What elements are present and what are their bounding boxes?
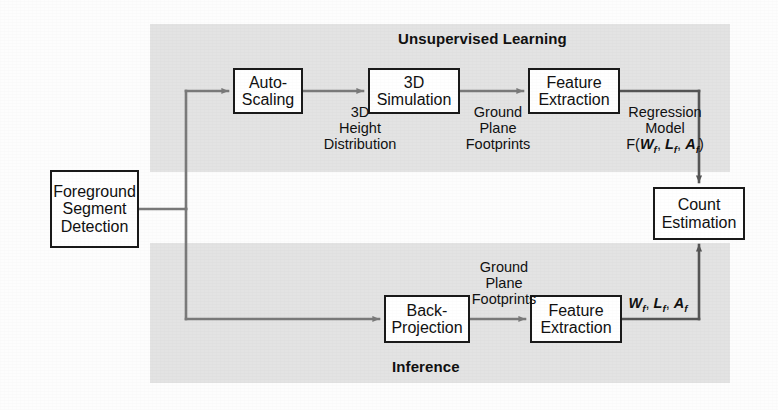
- node-line: Extraction: [538, 91, 609, 108]
- node-line: Auto-: [249, 74, 287, 91]
- node-line: Segment: [62, 200, 126, 217]
- edge-label-line: Footprints: [466, 291, 542, 307]
- edge-label-ground-plane-footprints-bottom: Ground Plane Footprints: [466, 259, 542, 308]
- edge-label-regression-model: Regression Model F(Wf, Lf, Af): [620, 104, 710, 155]
- edge-label-line: Height: [312, 120, 408, 136]
- pipeline-diagram: Unsupervised Learning Inference: [0, 0, 778, 410]
- edge-label-3d-height-distribution: 3D Height Distribution: [312, 104, 408, 153]
- edge-label-line: Plane: [460, 120, 536, 136]
- node-line: Extraction: [540, 319, 611, 336]
- node-feature-extraction-bottom[interactable]: Feature Extraction: [530, 295, 622, 343]
- node-back-projection[interactable]: Back- Projection: [384, 295, 470, 343]
- node-foreground-segment-detection[interactable]: Foreground Segment Detection: [50, 170, 139, 248]
- edge-label-line: Ground: [466, 259, 542, 275]
- node-line: Projection: [391, 319, 462, 336]
- node-line: Detection: [61, 218, 129, 235]
- node-count-estimation[interactable]: Count Estimation: [653, 187, 745, 240]
- node-line: Count: [678, 196, 721, 213]
- edge-label-line: Model: [620, 120, 710, 136]
- node-auto-scaling[interactable]: Auto- Scaling: [233, 68, 303, 114]
- node-line: Back-: [407, 302, 448, 319]
- node-line: Foreground: [53, 183, 136, 200]
- node-line: Scaling: [242, 91, 294, 108]
- edge-label-line: Regression: [620, 104, 710, 120]
- panel-label-unsupervised-learning: Unsupervised Learning: [398, 30, 567, 47]
- edge-label-ground-plane-footprints-top: Ground Plane Footprints: [460, 104, 536, 153]
- edge-label-line: Plane: [466, 275, 542, 291]
- edge-label-feature-vars: Wf, Lf, Af: [622, 295, 694, 314]
- edge-label-line: 3D: [312, 104, 408, 120]
- node-line: 3D: [404, 74, 424, 91]
- node-feature-extraction-top[interactable]: Feature Extraction: [528, 68, 620, 114]
- node-line: Feature: [548, 302, 603, 319]
- edge-label-line: Ground: [460, 104, 536, 120]
- edge-label-line: Footprints: [460, 136, 536, 152]
- panel-label-inference: Inference: [392, 358, 460, 375]
- feature-vars-formula: Wf, Lf, Af: [622, 295, 694, 314]
- edge-label-line: Distribution: [312, 136, 408, 152]
- node-line: Estimation: [662, 214, 737, 231]
- node-line: Feature: [546, 74, 601, 91]
- regression-model-formula: F(Wf, Lf, Af): [620, 136, 710, 155]
